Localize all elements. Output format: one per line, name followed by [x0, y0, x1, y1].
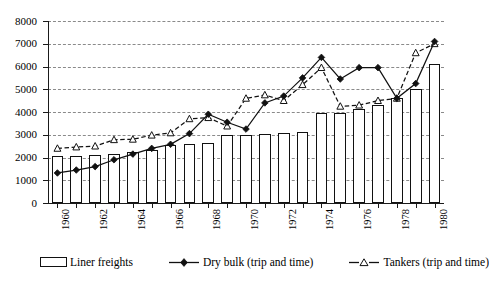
x-axis-tick-label: 1966	[175, 209, 186, 230]
y-axis-tick-mark	[43, 203, 49, 204]
x-axis-tick-label: 1972	[288, 209, 299, 230]
x-axis-tick-mark	[171, 203, 172, 208]
x-axis-tick-label: 1968	[212, 209, 223, 230]
series-line	[57, 41, 434, 173]
y-axis-tick-label: 6000	[0, 61, 44, 72]
series-dry-bulk	[54, 38, 438, 176]
y-axis-tick-label: 1000	[0, 175, 44, 186]
y-axis-tick-mark	[43, 67, 49, 68]
x-axis-tick-mark	[416, 203, 417, 208]
y-axis-tick-label: 7000	[0, 38, 44, 49]
x-axis-tick-mark	[76, 203, 77, 208]
data-point-marker-triangle	[261, 91, 268, 97]
x-axis-tick-mark	[359, 203, 360, 208]
y-axis-tick-mark	[43, 44, 49, 45]
y-axis-tick-mark	[43, 89, 49, 90]
data-point-marker-triangle	[92, 143, 99, 149]
data-point-marker-diamond	[167, 141, 174, 148]
y-axis-tick-label: 4000	[0, 107, 44, 118]
x-axis-tick-mark	[152, 203, 153, 208]
data-point-marker-diamond	[356, 64, 363, 71]
data-point-marker-diamond	[224, 119, 231, 126]
legend-label-liner-freights: Liner freights	[70, 256, 133, 268]
y-axis-tick-mark	[43, 180, 49, 181]
data-point-marker-diamond	[73, 167, 80, 174]
y-axis-tick-label: 5000	[0, 84, 44, 95]
y-axis-tick-label: 8000	[0, 16, 44, 27]
x-axis-tick-label: 1980	[439, 209, 450, 230]
y-axis-tick-mark	[43, 158, 49, 159]
x-axis-tick-mark	[189, 203, 190, 208]
x-axis-tick-mark	[303, 203, 304, 208]
x-axis-tick-mark	[95, 203, 96, 208]
legend-label-tankers: Tankers (trip and time)	[383, 256, 489, 268]
x-axis-tick-mark	[435, 203, 436, 208]
data-point-marker-triangle	[318, 64, 325, 70]
data-point-marker-diamond	[375, 64, 382, 71]
y-axis-tick-mark	[43, 21, 49, 22]
data-point-marker-triangle	[412, 49, 419, 55]
open-bar-icon	[40, 257, 67, 267]
x-axis-tick-label: 1974	[325, 209, 336, 230]
y-axis-tick-label: 0	[0, 198, 44, 209]
legend-item-liner-freights: Liner freights	[40, 256, 133, 268]
y-axis-tick-mark	[43, 135, 49, 136]
x-axis-tick-mark	[246, 203, 247, 208]
x-axis-tick-mark	[378, 203, 379, 208]
x-axis-tick-label: 1964	[137, 209, 148, 230]
x-axis-tick-label: 1962	[99, 209, 110, 230]
data-point-marker-triangle	[186, 115, 193, 121]
data-point-marker-triangle	[148, 132, 155, 138]
y-axis-tick-label: 3000	[0, 129, 44, 140]
filled-diamond-line-icon	[169, 257, 199, 268]
x-axis-tick-mark	[57, 203, 58, 208]
x-axis-tick-mark	[265, 203, 266, 208]
x-axis-tick-mark	[397, 203, 398, 208]
data-point-marker-triangle	[337, 103, 344, 109]
data-point-marker-triangle	[167, 129, 174, 135]
data-point-marker-diamond	[111, 156, 118, 163]
legend-item-tankers: Tankers (trip and time)	[349, 256, 489, 268]
x-axis-tick-label: 1978	[401, 209, 412, 230]
x-axis-tick-mark	[227, 203, 228, 208]
plot-area	[48, 21, 444, 203]
x-axis-tick-mark	[321, 203, 322, 208]
y-axis-tick-mark	[43, 112, 49, 113]
series-tankers	[54, 40, 438, 151]
y-axis-tick-labels: 010002000300040005000600070008000	[0, 0, 44, 281]
x-axis-tick-mark	[340, 203, 341, 208]
data-point-marker-diamond	[92, 163, 99, 170]
x-axis-tick-mark	[133, 203, 134, 208]
legend-label-dry-bulk: Dry bulk (trip and time)	[203, 256, 314, 268]
data-point-marker-diamond	[148, 145, 155, 152]
x-axis-tick-label: 1970	[250, 209, 261, 230]
chart-legend: Liner freights Dry bulk (trip and time) …	[40, 252, 440, 272]
y-axis-tick-label: 2000	[0, 152, 44, 163]
data-point-marker-diamond	[130, 151, 137, 158]
x-axis-tick-mark	[284, 203, 285, 208]
x-axis-tick-mark	[114, 203, 115, 208]
x-axis-tick-label: 1976	[363, 209, 374, 230]
legend-item-dry-bulk: Dry bulk (trip and time)	[169, 256, 314, 268]
open-triangle-line-icon	[349, 257, 379, 268]
data-point-marker-diamond	[54, 170, 61, 177]
line-series-overlay	[48, 21, 444, 203]
x-axis-tick-label: 1960	[61, 209, 72, 230]
x-axis-tick-mark	[208, 203, 209, 208]
